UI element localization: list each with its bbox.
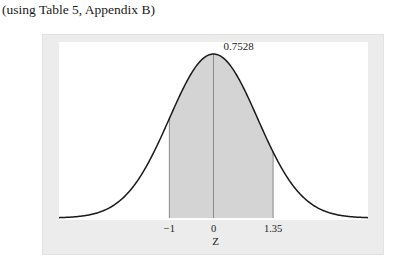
x-tick-label: −1 (164, 223, 175, 234)
x-tick-label: 1.35 (264, 223, 282, 234)
normal-distribution-chart: −101.35 0.7528 Z (0, 0, 398, 270)
shaded-area-label: 0.7528 (224, 40, 255, 52)
x-axis-label: Z (212, 235, 219, 247)
x-tick-label: 0 (211, 223, 216, 234)
